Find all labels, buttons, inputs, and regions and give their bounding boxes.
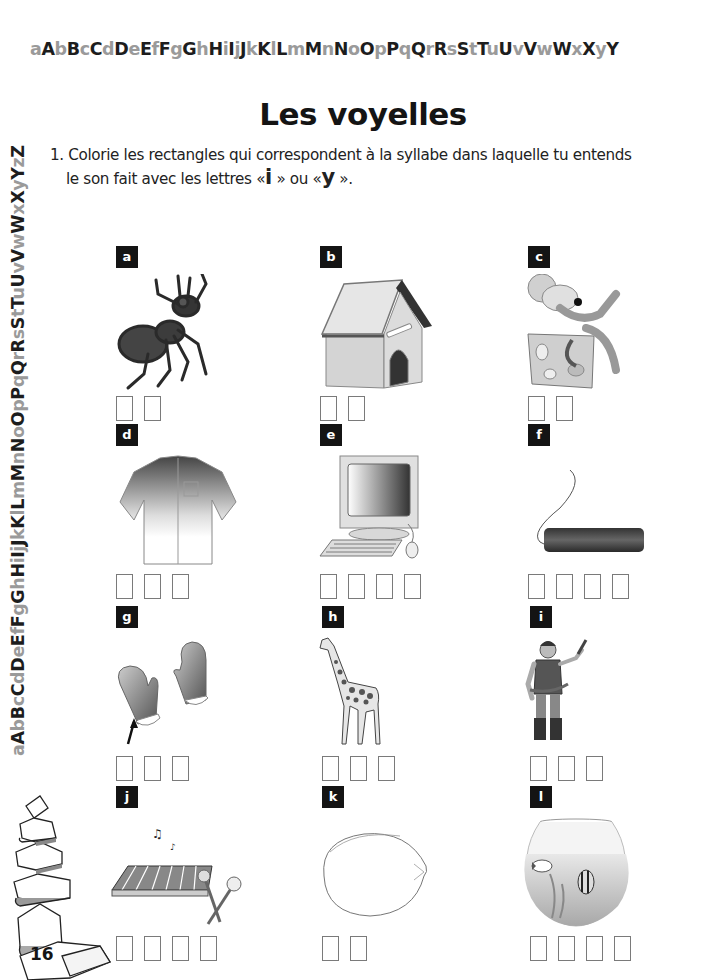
syllable-box[interactable]	[116, 574, 133, 599]
alphabet-letter: C	[8, 684, 28, 696]
item-c: c	[528, 246, 718, 421]
alphabet-letter: Z	[8, 145, 28, 157]
pirate-icon	[522, 634, 662, 752]
alphabet-letter: i	[8, 558, 28, 564]
syllable-box[interactable]	[612, 574, 629, 599]
item-label: d	[116, 424, 138, 446]
alphabet-letter: d	[8, 672, 28, 684]
item-d: d	[116, 424, 306, 599]
syllable-box[interactable]	[172, 756, 189, 781]
syllable-box[interactable]	[528, 574, 545, 599]
alphabet-letter: k	[246, 39, 257, 59]
alphabet-letter: r	[425, 39, 433, 59]
instruction-line-1: Colorie les rectangles qui correspondent…	[68, 146, 631, 164]
syllable-box[interactable]	[144, 574, 161, 599]
syllable-box[interactable]	[404, 574, 421, 599]
item-label: k	[322, 786, 344, 808]
syllable-box[interactable]	[200, 936, 217, 961]
item-i: i	[530, 606, 720, 781]
syllable-box[interactable]	[556, 396, 573, 421]
syllable-box[interactable]	[144, 756, 161, 781]
mittens-icon	[108, 634, 248, 752]
syllable-box[interactable]	[376, 574, 393, 599]
alphabet-letter: Q	[8, 361, 28, 375]
alphabet-letter: f	[8, 627, 28, 634]
alphabet-letter: L	[8, 499, 28, 510]
alphabet-letter: e	[8, 646, 28, 657]
syllable-box[interactable]	[614, 936, 631, 961]
syllable-box[interactable]	[556, 574, 573, 599]
syllable-boxes	[116, 396, 161, 421]
alphabet-letter: j	[8, 546, 28, 552]
syllable-box[interactable]	[584, 574, 601, 599]
syllable-box[interactable]	[320, 396, 337, 421]
syllable-boxes	[116, 574, 189, 599]
item-label: e	[320, 424, 342, 446]
syllable-box[interactable]	[530, 756, 547, 781]
syllable-boxes	[322, 936, 367, 961]
alphabet-letter: t	[469, 39, 477, 59]
alphabet-letter: W	[8, 215, 28, 234]
syllable-box[interactable]	[350, 936, 367, 961]
syllable-box[interactable]	[116, 396, 133, 421]
alphabet-letter: e	[128, 39, 139, 59]
alphabet-letter: G	[182, 39, 196, 59]
syllable-box[interactable]	[378, 756, 395, 781]
alphabet-letter: H	[8, 563, 28, 577]
syllable-box[interactable]	[144, 396, 161, 421]
alphabet-letter: N	[334, 39, 348, 59]
svg-text:♪: ♪	[170, 842, 176, 852]
syllable-box[interactable]	[322, 936, 339, 961]
alphabet-letter: A	[8, 731, 28, 744]
item-label: h	[322, 606, 344, 628]
alphabet-letter: Q	[411, 39, 425, 59]
giraffe-icon	[314, 634, 454, 752]
alphabet-letter: N	[8, 438, 28, 452]
syllable-boxes	[528, 396, 573, 421]
alphabet-letter: c	[8, 696, 28, 706]
syllable-box[interactable]	[558, 936, 575, 961]
alphabet-letter: P	[386, 39, 398, 59]
alphabet-letter: c	[80, 39, 90, 59]
alphabet-banner-top: aAbBcCdDeEfFgGhHiIjJkKlLmMnNoOpPqQrRsStT…	[30, 36, 619, 62]
alphabet-letter: o	[8, 426, 28, 438]
syllable-box[interactable]	[322, 756, 339, 781]
syllable-box[interactable]	[348, 574, 365, 599]
syllable-box[interactable]	[350, 756, 367, 781]
syllable-box[interactable]	[348, 396, 365, 421]
syllable-box[interactable]	[586, 936, 603, 961]
alphabet-letter: G	[8, 590, 28, 604]
syllable-box[interactable]	[528, 396, 545, 421]
syllable-box[interactable]	[586, 756, 603, 781]
item-label: i	[530, 606, 552, 628]
alphabet-letter: Y	[8, 167, 28, 179]
item-label: f	[528, 424, 550, 446]
item-h: h	[322, 606, 512, 781]
syllable-box[interactable]	[172, 936, 189, 961]
alphabet-letter: M	[8, 464, 28, 481]
instruction-line-2: le son fait avec les lettres «i » ou «y …	[50, 166, 710, 190]
alphabet-letter: I	[8, 552, 28, 558]
item-label: b	[320, 246, 342, 268]
alphabet-letter: g	[8, 604, 28, 616]
svg-text:♫: ♫	[152, 827, 163, 841]
syllable-box[interactable]	[558, 756, 575, 781]
alphabet-letter: b	[55, 39, 67, 59]
alphabet-letter: u	[487, 39, 499, 59]
alphabet-letter: D	[8, 658, 28, 672]
page-number: 16	[30, 944, 54, 964]
alphabet-letter: U	[8, 274, 28, 288]
syllable-box[interactable]	[530, 936, 547, 961]
alphabet-letter: m	[287, 39, 305, 59]
syllable-box[interactable]	[172, 574, 189, 599]
alphabet-letter: S	[457, 39, 469, 59]
alphabet-letter: y	[8, 180, 28, 191]
syllable-box[interactable]	[320, 574, 337, 599]
syllable-box[interactable]	[116, 756, 133, 781]
alphabet-letter: A	[41, 39, 54, 59]
item-g: g	[116, 606, 306, 781]
instruction-text: le son fait avec les lettres «	[66, 170, 265, 188]
alphabet-letter: T	[8, 299, 28, 309]
alphabet-letter: x	[571, 39, 582, 59]
alphabet-letter: w	[8, 234, 28, 250]
